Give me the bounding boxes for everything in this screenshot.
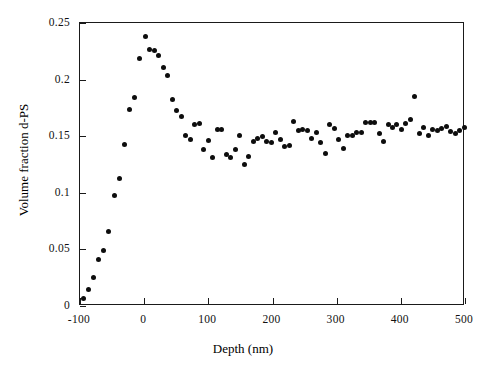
scatter-plot-figure: -1000100200300400500 00.050.10.150.20.25… [0,0,486,376]
y-axis-tick-labels: 00.050.10.150.20.25 [0,0,486,376]
x-axis-title: Depth (nm) [0,341,486,357]
y-tick-label: 0.05 [26,242,70,254]
y-tick-label: 0 [26,299,70,311]
y-tick-label: 0.1 [26,186,70,198]
y-tick-label: 0.15 [26,129,70,141]
y-tick-label: 0.25 [26,16,70,28]
y-axis-title: Volume fraction d-PS [16,60,32,260]
y-tick-label: 0.2 [26,73,70,85]
